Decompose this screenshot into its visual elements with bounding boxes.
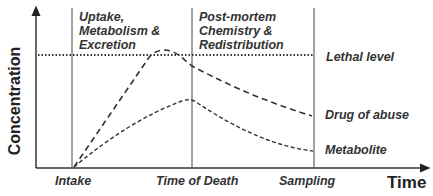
- phase-line: Redistribution: [199, 38, 284, 52]
- lethal-level-label: Lethal level: [326, 50, 394, 64]
- phase-postmortem-label: Post-mortem Chemistry & Redistribution: [199, 10, 284, 52]
- phase-line: Excretion: [79, 38, 160, 52]
- phase-line: Chemistry &: [199, 24, 284, 38]
- drug-of-abuse-curve: [74, 50, 312, 167]
- time-of-death-label: Time of Death: [156, 174, 238, 188]
- phase-line: Metabolism &: [79, 24, 160, 38]
- intake-label: Intake: [55, 174, 91, 188]
- phase-uptake-label: Uptake, Metabolism & Excretion: [79, 10, 160, 52]
- phase-line: Uptake,: [79, 10, 160, 24]
- phase-line: Post-mortem: [199, 10, 284, 24]
- sampling-label: Sampling: [279, 174, 335, 188]
- x-axis-label: Time: [387, 173, 426, 193]
- metabolite-label: Metabolite: [325, 143, 387, 157]
- drug-of-abuse-label: Drug of abuse: [325, 108, 409, 122]
- y-axis-label: Concentration: [6, 46, 24, 156]
- metabolite-curve: [74, 100, 313, 167]
